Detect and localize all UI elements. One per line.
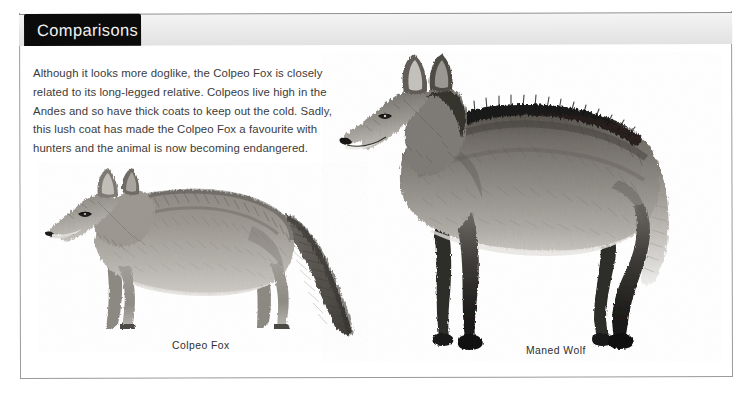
page-root: Comparisons Although it looks more dogli… — [0, 0, 750, 403]
colpeo-fox-drawing — [38, 162, 368, 352]
intro-paragraph: Although it looks more doglike, the Colp… — [33, 64, 353, 157]
fox-paper-grain — [38, 162, 368, 352]
wolf-paper-grain — [322, 52, 722, 362]
section-tab-label: Comparisons — [24, 20, 138, 39]
section-tab[interactable]: Comparisons — [24, 14, 141, 46]
caption-maned-wolf: Maned Wolf — [526, 345, 586, 356]
colpeo-fox-illustration — [38, 162, 368, 352]
maned-wolf-drawing — [322, 52, 722, 362]
maned-wolf-illustration — [322, 52, 722, 362]
caption-colpeo-fox: Colpeo Fox — [172, 340, 230, 351]
